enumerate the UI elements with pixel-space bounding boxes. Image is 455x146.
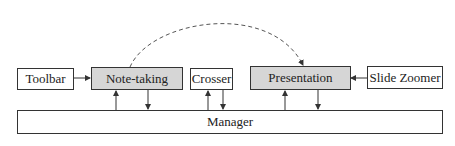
node-crosser: Crosser: [190, 68, 233, 90]
node-label: Note-taking: [106, 71, 168, 87]
node-label: Toolbar: [25, 71, 65, 87]
node-toolbar: Toolbar: [17, 68, 74, 90]
node-presentation: Presentation: [250, 66, 351, 90]
node-slide-zoomer: Slide Zoomer: [367, 66, 443, 89]
node-label: Presentation: [268, 70, 332, 86]
node-label: Slide Zoomer: [369, 70, 440, 86]
node-manager: Manager: [17, 110, 443, 134]
node-label: Crosser: [192, 71, 232, 87]
node-note-taking: Note-taking: [91, 67, 183, 90]
dashed-arc-note-to-presentation: [130, 24, 303, 67]
node-label: Manager: [207, 114, 253, 130]
